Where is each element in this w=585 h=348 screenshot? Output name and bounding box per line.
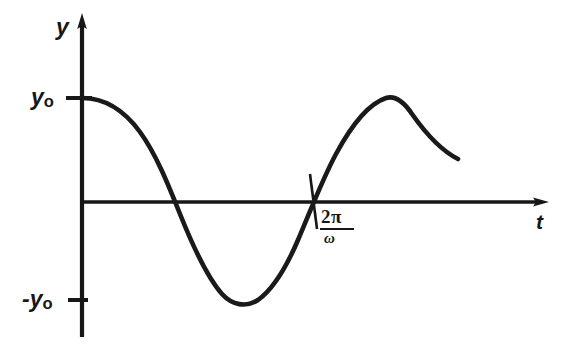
tick-label-amplitude-negative: -yo xyxy=(22,288,53,311)
t-axis-label: t xyxy=(536,211,543,232)
period-fraction-denominator: ω xyxy=(320,231,366,247)
period-fraction-label: 2π ω xyxy=(320,207,366,247)
oscillation-figure xyxy=(0,0,585,348)
figure-background xyxy=(0,0,585,348)
tick-label-amplitude-positive-subscript: o xyxy=(44,92,54,111)
tick-label-amplitude-negative-subscript: o xyxy=(42,294,52,313)
period-fraction-numerator: 2π xyxy=(320,207,366,227)
y-axis-label: y xyxy=(56,16,69,39)
tick-label-amplitude-positive: yo xyxy=(31,86,54,109)
